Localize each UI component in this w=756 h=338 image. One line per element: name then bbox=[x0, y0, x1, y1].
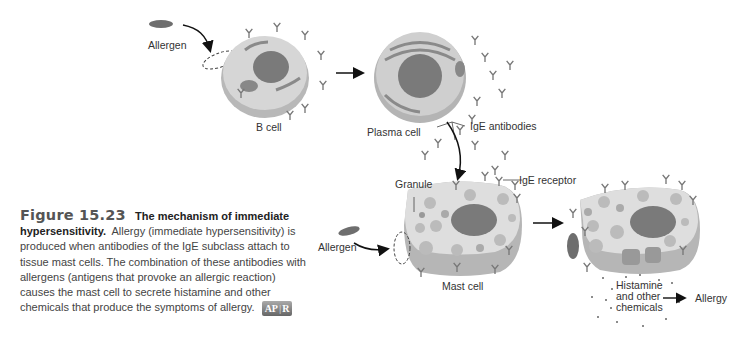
degranulating-mast-cell-illustration bbox=[567, 175, 700, 274]
label-ige-antibodies: IgE antibodies bbox=[470, 120, 537, 132]
label-b-cell: B cell bbox=[256, 121, 282, 133]
label-mast-cell: Mast cell bbox=[442, 280, 483, 292]
plasma-cell-illustration bbox=[374, 32, 466, 123]
label-allergy: Allergy bbox=[695, 292, 727, 304]
allergen-icon-2 bbox=[337, 224, 360, 237]
label-granule: Granule bbox=[395, 178, 432, 190]
label-histamine: Histamine and other chemicals bbox=[616, 280, 663, 313]
apr-badge[interactable]: AP|R bbox=[262, 301, 293, 316]
label-allergen-top: Allergen bbox=[148, 39, 187, 51]
label-ige-receptor: IgE receptor bbox=[519, 174, 576, 186]
b-cell-illustration bbox=[221, 23, 326, 120]
figure-caption: Figure 15.23 The mechanism of immediate … bbox=[20, 208, 310, 316]
label-plasma-cell: Plasma cell bbox=[367, 126, 421, 138]
arrow-allergen-to-bcell bbox=[183, 25, 210, 50]
label-allergen-bottom: Allergen bbox=[318, 241, 357, 253]
allergen-icon bbox=[149, 20, 173, 28]
figure-number: Figure 15.23 bbox=[20, 207, 126, 223]
